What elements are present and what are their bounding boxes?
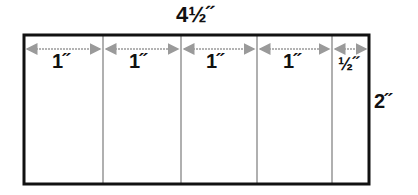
segment-label-4: 1˝ — [283, 50, 301, 73]
diagram-canvas — [0, 0, 418, 195]
height-label: 2˝ — [374, 90, 392, 113]
segment-label-3: 1˝ — [206, 50, 224, 73]
segment-label-1: 1˝ — [52, 50, 70, 73]
segment-label-2: 1˝ — [129, 50, 147, 73]
total-width-label: 4½˝ — [176, 2, 214, 28]
rectangle-outline — [24, 35, 369, 184]
segment-label-5: ½˝ — [338, 54, 359, 75]
